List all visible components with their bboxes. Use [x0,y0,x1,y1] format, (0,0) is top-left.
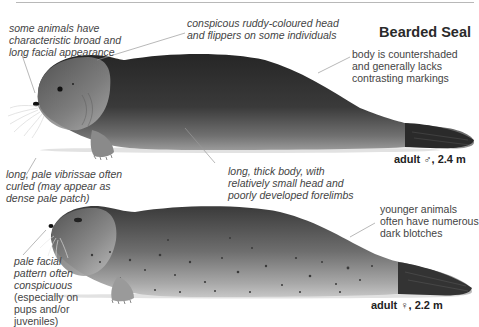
annotation-younger-animals: younger animals often have numerous dark… [380,203,479,239]
annotation-thick-body: long, thick body, with relatively small … [228,165,354,201]
annotation-countershaded: body is countershaded and generally lack… [352,48,458,84]
caption-adult-male: adult ♂, 2.4 m [394,153,466,165]
annotation-ruddy-head: conspicous ruddy-coloured head and flipp… [187,17,339,41]
caption-adult-female: adult ♀, 2.2 m [371,299,443,311]
annotation-pale-facial: pale facial pattern often conspicuous (e… [14,255,78,327]
annotation-vibrissae: long, pale vibrissae often curled (may a… [6,168,122,204]
annotation-facial-appearance: some animals have characteristic broad a… [9,22,121,58]
